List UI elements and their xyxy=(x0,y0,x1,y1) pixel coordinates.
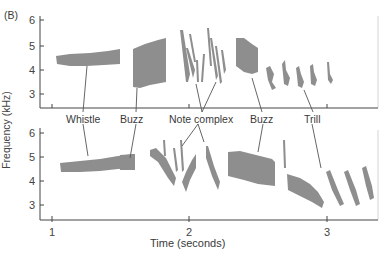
annotation-whistle: Whistle xyxy=(66,114,100,125)
top-y-tick-label-3: 3 xyxy=(29,88,35,100)
annotation-buzz-2: Buzz xyxy=(250,114,273,125)
top-buzz2-segment xyxy=(236,38,258,74)
top-spectrogram xyxy=(56,28,333,90)
bottom-buzz-segment xyxy=(228,151,275,186)
top-y-tick-label-4: 4 xyxy=(29,64,35,76)
panel-label: (B) xyxy=(4,10,18,21)
bottom-y-tick-label-6: 6 xyxy=(29,127,35,139)
top-panel xyxy=(40,16,378,108)
bottom-y-tick-label-4: 4 xyxy=(29,175,35,187)
x-axis-label: Time (seconds) xyxy=(150,238,225,249)
spectrogram-figure xyxy=(0,0,386,256)
top-y-tick-label-6: 6 xyxy=(29,14,35,26)
bottom-trill-sweep xyxy=(287,174,324,208)
bottom-note-complex-1 xyxy=(150,148,176,186)
annotation-trill: Trill xyxy=(304,114,321,125)
bottom-trill-note-1 xyxy=(326,170,344,206)
x-tick-label-1: 1 xyxy=(49,226,55,238)
bottom-spectrogram xyxy=(60,140,374,208)
top-y-tick-label-5: 5 xyxy=(29,40,35,52)
y-axis-label: Frequency (kHz) xyxy=(0,91,12,169)
annotation-note-complex: Note complex xyxy=(169,114,233,125)
x-tick-label-3: 3 xyxy=(324,226,330,238)
top-trill-note-1 xyxy=(266,66,276,90)
bottom-panel xyxy=(40,128,378,222)
top-whistle-segment xyxy=(56,49,120,66)
bottom-y-tick-label-5: 5 xyxy=(29,151,35,163)
annotation-buzz-1: Buzz xyxy=(120,114,143,125)
top-buzz-segment xyxy=(133,38,166,88)
bottom-y-tick-label-3: 3 xyxy=(29,199,35,211)
